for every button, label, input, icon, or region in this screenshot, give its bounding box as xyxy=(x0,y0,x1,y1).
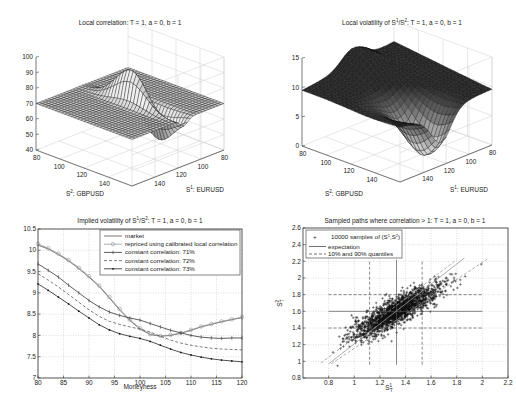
tick-label: 120 xyxy=(444,167,455,174)
tick-label: 1.6 xyxy=(292,308,301,315)
chart-title: Sampled paths where correlation > 1: T =… xyxy=(325,217,486,225)
marker xyxy=(78,310,80,312)
tick-label: 2.2 xyxy=(503,379,512,386)
tick xyxy=(302,58,305,59)
x-axis-label: S1: EURUSD xyxy=(450,185,488,193)
tick-label: 15 xyxy=(292,54,300,61)
tick-label: 7.5 xyxy=(27,353,36,360)
tick-label: 0 xyxy=(295,142,299,149)
tick-label: 80 xyxy=(489,149,497,156)
tick-label: 1.4 xyxy=(292,324,301,331)
tick-label: 60 xyxy=(26,115,34,122)
tick-label: 80 xyxy=(221,154,229,161)
tick-label: 9.5 xyxy=(27,268,36,275)
tick-label: 1.4 xyxy=(401,379,410,386)
reference-lines xyxy=(321,258,489,365)
tick-label: 140 xyxy=(154,180,165,187)
marker xyxy=(211,358,213,360)
chart-title: Local correlation: T = 1, a = 0, b = 1 xyxy=(79,19,182,26)
tick-label: 140 xyxy=(367,176,378,183)
surface-mesh xyxy=(302,42,492,156)
chart-title: Implied volatility of S1/S2: T = 1, a = … xyxy=(77,216,203,225)
legend-label: constant correlation: 73% xyxy=(125,265,195,272)
marker xyxy=(180,352,182,354)
legend-label: 10% and 90% quantiles xyxy=(328,250,393,257)
marker xyxy=(231,360,233,362)
tick-label: 2.4 xyxy=(292,241,301,248)
tick-label: 7 xyxy=(32,374,36,381)
tick-label: 50 xyxy=(26,131,34,138)
tick-label: 10 xyxy=(29,246,37,253)
tick-label: 120 xyxy=(176,171,187,178)
legend-label: repriced using calibrated local correlat… xyxy=(125,240,238,247)
tick-label: 8.5 xyxy=(27,310,36,317)
tick-label: 120 xyxy=(76,171,87,178)
tick-label: 2.2 xyxy=(292,258,301,265)
marker xyxy=(68,303,70,305)
y-axis xyxy=(36,150,132,186)
marker xyxy=(170,348,172,350)
tick-label: 80 xyxy=(26,84,34,91)
tick-label: 85 xyxy=(60,379,68,386)
tick-label: 40 xyxy=(26,146,34,153)
y-axis-label: S2: GBPUSD xyxy=(325,189,363,197)
marker xyxy=(58,296,60,298)
tick xyxy=(36,57,39,58)
tick-label: 10 xyxy=(292,84,300,91)
figure: Local correlation: T = 1, a = 0, b = 1 4… xyxy=(0,0,516,412)
tick-label: 140 xyxy=(422,175,433,182)
tick-label: 2 xyxy=(297,274,301,281)
legend-label: constant correlation: 72% xyxy=(125,257,195,264)
y-axis-label: S2T xyxy=(275,299,285,307)
tick-label: 90 xyxy=(85,379,93,386)
marker xyxy=(149,340,151,342)
tick-label: 140 xyxy=(99,180,110,187)
tick-label: 105 xyxy=(160,379,171,386)
y-axis xyxy=(302,146,400,182)
tick-label: 0.8 xyxy=(292,374,301,381)
tick-label: 0.8 xyxy=(324,379,333,386)
tick-label: 9 xyxy=(32,289,36,296)
tick-label: 100 xyxy=(198,163,209,170)
marker xyxy=(119,333,121,335)
tick-label: 100 xyxy=(22,53,33,60)
tick-label: 80 xyxy=(33,154,41,161)
marker xyxy=(88,317,90,319)
marker xyxy=(160,344,162,346)
marker xyxy=(109,329,111,331)
legend-marker: + xyxy=(313,233,317,240)
panel-sampled-paths: Sampled paths where correlation > 1: T =… xyxy=(275,217,513,393)
figure-canvas: Local correlation: T = 1, a = 0, b = 1 4… xyxy=(0,0,516,412)
legend-label: market xyxy=(125,232,144,239)
tick-label: 1.2 xyxy=(292,341,301,348)
panel-local-volatility: Local volatility of S1/S2: T = 1, a = 0,… xyxy=(292,18,497,197)
marker xyxy=(47,289,49,291)
x-axis-label: S1: EURUSD xyxy=(186,185,224,193)
tick xyxy=(36,119,39,120)
tick-label: 100 xyxy=(320,159,331,166)
tick-label: 2.6 xyxy=(292,224,301,231)
legend-marker xyxy=(112,268,114,270)
tick-label: 110 xyxy=(186,379,197,386)
surface-mesh xyxy=(36,68,224,140)
tick-label: 80 xyxy=(299,150,307,157)
marker xyxy=(129,335,131,337)
tick-label: 5 xyxy=(295,113,299,120)
tick-label: 1 xyxy=(297,358,301,365)
legend: marketrepriced using calibrated local co… xyxy=(100,230,240,275)
legend-label: 10000 samples of (S1,S2) xyxy=(331,233,400,240)
tick-label: 120 xyxy=(343,167,354,174)
marker xyxy=(221,359,223,361)
tick xyxy=(302,87,305,88)
y-axis-label: S2: GBPUSD xyxy=(66,189,104,197)
tick-label: 100 xyxy=(54,163,65,170)
tick-label: 2 xyxy=(481,379,485,386)
series-line xyxy=(38,284,242,362)
tick-label: 100 xyxy=(466,158,477,165)
tick xyxy=(36,134,39,135)
marker xyxy=(139,338,141,340)
tick-label: 1.6 xyxy=(427,379,436,386)
tick xyxy=(302,116,305,117)
legend-label: constant correlation: 71% xyxy=(125,248,195,255)
tick-label: 120 xyxy=(237,379,248,386)
